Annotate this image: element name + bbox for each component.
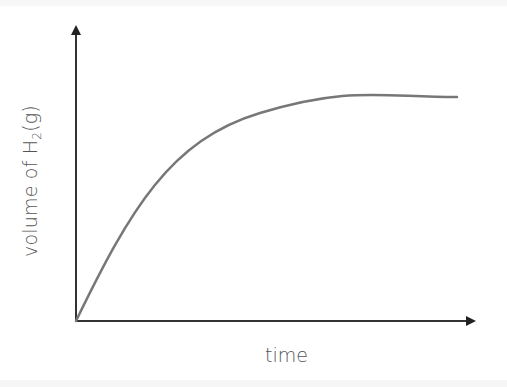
bottom-edge-band [0,380,507,387]
volume-curve [76,95,457,321]
y-axis-label: volume of H2(g) [19,105,44,257]
x-axis-label: time [265,344,308,366]
graph-area [0,0,507,387]
